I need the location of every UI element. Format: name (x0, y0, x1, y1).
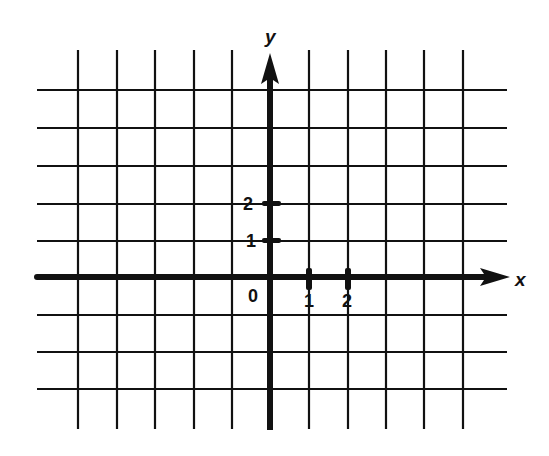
x-tick-2 (345, 268, 351, 290)
x-tick-label-1: 1 (304, 291, 314, 311)
x-tick-1 (306, 268, 312, 290)
x-axis (37, 268, 510, 290)
y-tick-label-1: 1 (246, 231, 256, 251)
y-axis-label: y (264, 26, 277, 47)
x-axis-label: x (514, 269, 527, 290)
x-tick-label-2: 2 (342, 291, 352, 311)
y-axis (261, 53, 281, 430)
origin-label: 0 (248, 286, 258, 306)
y-tick-1 (262, 238, 281, 243)
y-tick-label-2: 2 (243, 194, 253, 214)
coordinate-plane: x y 0 1 2 2 1 (0, 0, 549, 456)
y-tick-2 (262, 201, 281, 206)
